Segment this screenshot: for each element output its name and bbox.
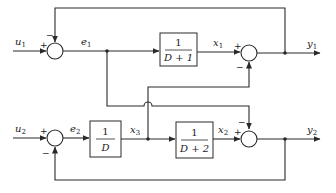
sum-y1-plus-sign: + — [234, 41, 242, 51]
e2-label: e2 — [70, 123, 80, 136]
block-bottom-numerator: 1 — [191, 127, 197, 138]
block-bottom-denominator: D + 2 — [179, 143, 209, 154]
sum-e1-plus-sign: + — [40, 40, 48, 50]
transfer-block-integrator: 1 D — [90, 121, 121, 157]
e1-label: e1 — [81, 36, 91, 49]
block-integrator-denominator: D — [100, 142, 109, 153]
sum-e2-minus-sign: − — [42, 148, 50, 158]
x1-label: x1 — [213, 37, 223, 50]
u1-label: u1 — [15, 36, 26, 49]
summing-junction-e1 — [47, 43, 63, 59]
summing-junction-y1 — [241, 45, 257, 61]
x3-branch-point — [146, 137, 150, 141]
sum-y2-plus-sign: + — [234, 127, 242, 137]
sum-e2-plus-sign: + — [40, 126, 48, 136]
sum-y2-minus-sign: − — [238, 117, 246, 127]
summing-junction-y2 — [241, 131, 257, 147]
sum-e1-minus-sign: − — [46, 30, 54, 40]
block-diagram: u1 + − e1 1 D + 1 x1 + − y1 u2 + − e2 1 — [0, 0, 336, 193]
y2-label: y2 — [306, 124, 317, 137]
x2-label: x2 — [218, 124, 228, 137]
transfer-block-bottom: 1 D + 2 — [176, 122, 213, 158]
y1-label: y1 — [306, 38, 317, 51]
summing-junction-e2 — [47, 130, 63, 146]
x3-label: x3 — [130, 124, 140, 137]
block-top-numerator: 1 — [175, 37, 181, 48]
transfer-block-top: 1 D + 1 — [160, 33, 197, 66]
block-integrator-numerator: 1 — [102, 126, 108, 137]
u2-label: u2 — [15, 123, 26, 136]
block-top-denominator: D + 1 — [163, 52, 193, 63]
sum-y1-minus-sign: − — [236, 62, 244, 72]
